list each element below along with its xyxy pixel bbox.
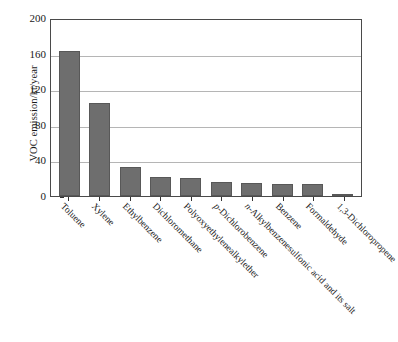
bar-slot (206, 20, 236, 196)
bar-slot (297, 20, 327, 196)
bar-group (51, 20, 361, 196)
bar-dichloromethane (150, 177, 171, 196)
bar-toluene (59, 51, 80, 196)
y-axis-tick-group: 20016012080400 (14, 0, 46, 342)
bar-1-3-dichloropropene (332, 194, 353, 196)
bar-slot (115, 20, 145, 196)
x-axis-label-cat-toluene: Toluene (59, 201, 88, 230)
bar-slot (267, 20, 297, 196)
y-tick-label-80: 80 (16, 120, 46, 131)
bar-benzene (272, 184, 293, 196)
bar-polyoxyethylenealkylether (180, 178, 201, 196)
bar-slot (145, 20, 175, 196)
y-tick-label-120: 120 (16, 84, 46, 95)
bar-slot (54, 20, 84, 196)
bar-xylene (89, 103, 110, 196)
x-axis-label-cat-xylene: Xylene (90, 201, 116, 227)
x-axis-label-cat-benzene: Benzene (273, 201, 303, 231)
bar-p-dichlorobenzene (211, 182, 232, 196)
x-axis-label-group: TolueneXyleneEthylbenzeneDichloromethane… (50, 201, 380, 341)
y-tick-label-200: 200 (16, 13, 46, 24)
y-tick-label-40: 40 (16, 155, 46, 166)
bar-n-alkylbenzenesulfonic-acid-and-its-salt (241, 183, 262, 196)
bar-slot (84, 20, 114, 196)
bar-slot (176, 20, 206, 196)
bar-slot (328, 20, 358, 196)
x-axis-label-cat-1-3-dichloropropene: 1,3-Dichloropropene (335, 201, 398, 264)
y-tick-label-0: 0 (16, 191, 46, 202)
bar-ethylbenzene (120, 167, 141, 196)
plot-area (50, 19, 362, 197)
x-axis-label-cat-n-alkylbenzenesulfonic-acid-and-its-salt: n-Alkylbenzenesulfonic acid and its salt (243, 201, 358, 316)
bar-slot (236, 20, 266, 196)
y-tick-label-160: 160 (16, 49, 46, 60)
x-axis-label-cat-p-dichlorobenzene: p-Dichlorobenzene (212, 201, 271, 260)
bar-formaldehyde (302, 184, 323, 196)
